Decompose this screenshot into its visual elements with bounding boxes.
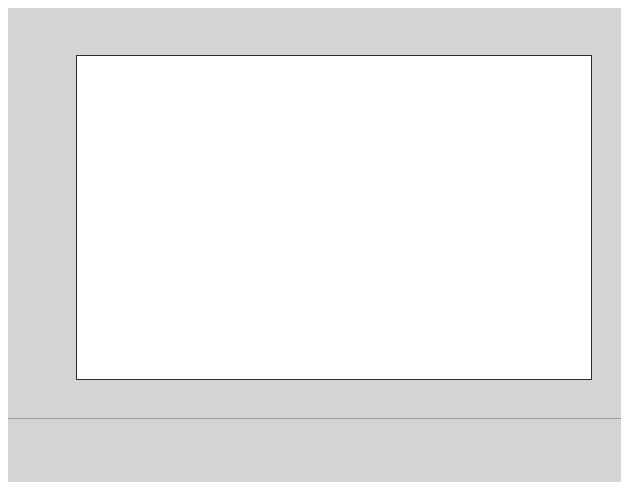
caption-area — [8, 418, 621, 482]
figure-page — [0, 0, 637, 489]
plot-area — [76, 55, 592, 380]
y-axis-title-wrap — [0, 0, 1, 1]
figure-caption — [34, 427, 614, 444]
chart-svg — [77, 56, 591, 379]
